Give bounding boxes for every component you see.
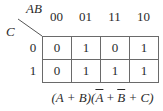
column-header: 11: [100, 9, 129, 25]
column-header: 01: [71, 9, 100, 25]
column-header: 10: [129, 9, 158, 25]
kmap-cell: 0: [43, 37, 72, 60]
boolean-expression: (A + B)(A + B + C): [46, 90, 159, 106]
column-variables-label: AB: [26, 1, 42, 17]
kmap-cell: 1: [101, 60, 130, 83]
expr-part1: (A + B)(: [52, 90, 96, 105]
kmap-cell: 1: [130, 60, 159, 83]
row-header: 0: [27, 40, 39, 56]
kmap-cell: 1: [72, 60, 101, 83]
expr-b-bar: B: [117, 90, 125, 105]
expr-part2: + C): [125, 90, 153, 105]
karnaugh-map-grid: 0 1 0 1 0 1 1 1: [42, 36, 159, 83]
kmap-cell: 1: [130, 37, 159, 60]
expr-plus: +: [103, 90, 117, 105]
kmap-cell: 0: [101, 37, 130, 60]
kmap-cell: 0: [43, 60, 72, 83]
kmap-row: 0 1 0 1: [43, 37, 159, 60]
kmap-row: 0 1 1 1: [43, 60, 159, 83]
kmap-cell: 1: [72, 37, 101, 60]
column-header: 00: [42, 9, 71, 25]
row-variable-label: C: [6, 24, 15, 40]
row-header: 1: [27, 63, 39, 79]
